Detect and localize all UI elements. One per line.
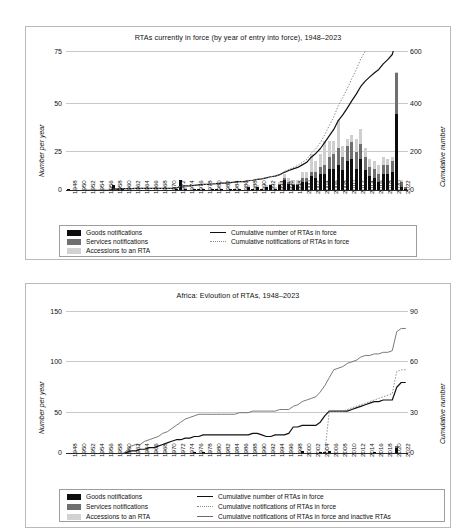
chart-panel-rtas-in-force: RTAs currently in force (by year of entr… [25,26,451,260]
swatch-accessions-icon [67,248,81,254]
x-tick-label-2004: 2004 [323,180,330,194]
chart1-title: RTAs currently in force (by year of entr… [26,33,450,42]
x-tick-label-2014: 2014 [368,443,375,457]
x-tick-label-1958: 1958 [116,180,123,194]
x-tick-label-2010: 2010 [350,180,357,194]
chart1-ytick-75: 75 [34,48,62,55]
x-tick-label-2002: 2002 [314,443,321,457]
chart2-ytick-100: 100 [34,358,62,365]
chart2-x-axis-labels: 1948195019521954195619581960196219641966… [66,457,408,491]
x-tick-label-1964: 1964 [143,180,150,194]
x-tick-label-1950: 1950 [80,180,87,194]
x-tick-label-1994: 1994 [278,180,285,194]
x-tick-label-1950: 1950 [80,443,87,457]
x-tick-label-2016: 2016 [377,180,384,194]
chart2-plot-area [66,311,408,454]
chart1-legend-item-services: Services notifications [67,238,148,245]
chart2-legend-label-services: Services notifications [86,503,148,510]
x-tick-label-1962: 1962 [134,443,141,457]
x-tick-label-2000: 2000 [305,180,312,194]
x-tick-label-2006: 2006 [332,443,339,457]
x-tick-label-1956: 1956 [107,443,114,457]
swatch-accessions-icon [67,514,81,520]
chart1-plot-area [66,51,408,191]
x-tick-label-2002: 2002 [314,180,321,194]
x-tick-label-1988: 1988 [251,180,258,194]
chart1-legend-label-cumulative-notifications: Cumulative notifications of RTAs in forc… [231,238,349,245]
line-cumulative-notifications-of-rtas-in-force [68,51,406,191]
x-tick-label-1976: 1976 [197,443,204,457]
x-tick-label-1958: 1958 [116,443,123,457]
chart1-y2tick-400: 400 [410,100,442,107]
chart1-legend-label-accessions: Accessions to an RTA [86,247,150,254]
line-cumulative-number-of-rtas-in-force [68,51,406,191]
x-tick-label-1970: 1970 [170,180,177,194]
x-tick-label-2006: 2006 [332,180,339,194]
line-solid-icon [197,494,213,500]
x-tick-label-1996: 1996 [287,180,294,194]
chart2-legend-item-services: Services notifications [67,503,148,510]
chart1-lines [66,51,408,191]
x-tick-label-2012: 2012 [359,180,366,194]
x-tick-label-1978: 1978 [206,443,213,457]
chart2-legend: Goods notifications Services notificatio… [59,489,445,522]
chart2-legend-label-cumulative-notifications: Cumulative notifications of RTAs in forc… [218,503,336,510]
chart1-legend-item-cumulative-in-force: Cumulative number of RTAs in force [210,229,337,236]
chart2-legend-label-cumulative-inactive: Cumulative notifications of RTAs in forc… [218,513,391,520]
x-tick-label-2020: 2020 [395,180,402,194]
chart2-legend-item-goods: Goods notifications [67,493,142,500]
chart1-legend-label-services: Services notifications [86,238,148,245]
x-tick-label-2008: 2008 [341,180,348,194]
x-tick-label-1948: 1948 [71,443,78,457]
swatch-services-icon [67,504,81,510]
chart2-title: Africa: Evloution of RTAs, 1948–2023 [26,291,450,300]
chart1-ytick-50: 50 [34,100,62,107]
x-tick-label-1966: 1966 [152,443,159,457]
x-tick-label-1992: 1992 [269,180,276,194]
chart1-legend-item-accessions: Accessions to an RTA [67,247,150,254]
x-tick-label-1986: 1986 [242,443,249,457]
x-tick-label-1954: 1954 [98,443,105,457]
x-tick-label-1998: 1998 [296,180,303,194]
x-tick-label-1972: 1972 [179,180,186,194]
chart2-legend-label-goods: Goods notifications [86,493,142,500]
x-tick-label-1972: 1972 [179,443,186,457]
chart2-legend-item-cumulative-inactive: Cumulative notifications of RTAs in forc… [197,513,391,520]
swatch-goods-icon [67,494,81,500]
chart2-legend-label-accessions: Accessions to an RTA [86,513,150,520]
chart1-legend-label-cumulative-in-force: Cumulative number of RTAs in force [231,229,337,236]
chart2-y2tick-60: 60 [410,358,442,365]
chart1-ytick-0: 0 [34,186,62,193]
chart2-legend-item-cumulative-notifications: Cumulative notifications of RTAs in forc… [197,503,336,510]
x-tick-label-1994: 1994 [278,443,285,457]
line-dotted-icon [210,239,226,245]
x-tick-label-1984: 1984 [233,443,240,457]
chart1-legend-item-cumulative-notifications: Cumulative notifications of RTAs in forc… [210,238,349,245]
line-solid-gray-icon [197,514,213,520]
x-tick-label-2014: 2014 [368,180,375,194]
chart2-legend-item-cumulative-in-force: Cumulative number of RTAs in force [197,493,324,500]
x-tick-label-1948: 1948 [71,180,78,194]
x-tick-label-2008: 2008 [341,443,348,457]
x-tick-label-1970: 1970 [170,443,177,457]
chart2-legend-label-cumulative-in-force: Cumulative number of RTAs in force [218,493,324,500]
x-tick-label-1992: 1992 [269,443,276,457]
swatch-goods-icon [67,230,81,236]
chart1-x-axis-labels: 1948195019521954195619581960196219641966… [66,194,408,228]
x-tick-label-2018: 2018 [386,180,393,194]
x-tick-label-2020: 2020 [395,443,402,457]
chart2-lines [66,311,408,454]
x-tick-label-2004: 2004 [323,443,330,457]
x-tick-label-1984: 1984 [233,180,240,194]
chart1-ytick-25: 25 [34,148,62,155]
x-tick-label-2022: 2022 [404,443,411,457]
chart1-y2tick-200: 200 [410,148,442,155]
x-tick-label-1968: 1968 [161,443,168,457]
chart2-y2tick-90: 90 [410,308,442,315]
line-dotted-icon [197,504,213,510]
x-tick-label-1982: 1982 [224,180,231,194]
x-tick-label-1998: 1998 [296,443,303,457]
chart2-ytick-0: 0 [34,449,62,456]
chart1-legend: Goods notifications Services notificatio… [59,225,417,257]
x-tick-label-2018: 2018 [386,443,393,457]
